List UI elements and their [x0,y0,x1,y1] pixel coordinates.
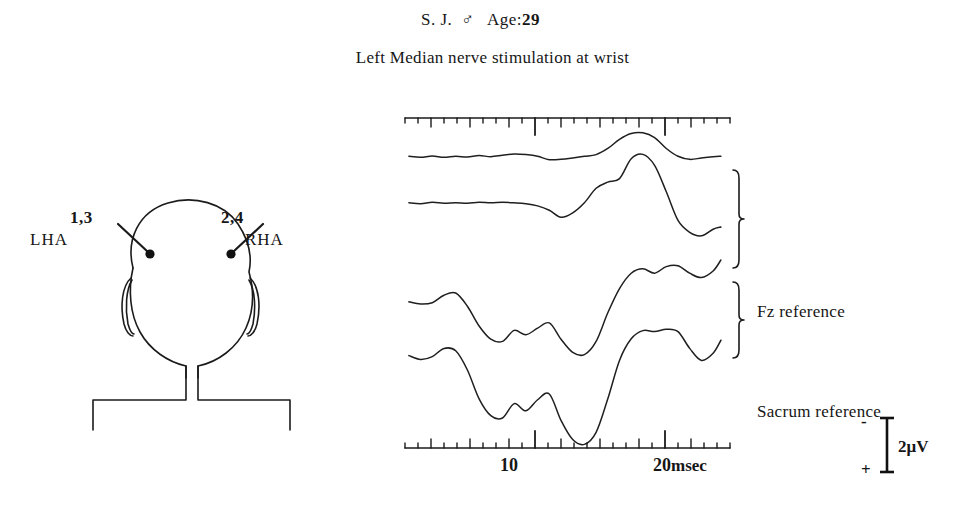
fz-group-bracket [733,170,744,268]
right-electrode-label: RHA [245,230,284,250]
sep-figure: S. J. ♂ Age:29 Left Median nerve stimula… [0,0,961,523]
head-diagram: 1,3 LHA 2,4 RHA [18,100,348,440]
patient-header: S. J. ♂ Age:29 [0,10,961,30]
subject-initials: S. J. [421,10,452,29]
calibration-negative-sign: - [861,412,867,432]
waveform-trace-1 [409,132,721,159]
stimulation-description: Left Median nerve stimulation at wrist [0,48,961,68]
right-electrode-numbers: 2,4 [221,208,244,228]
neck-shoulder-right [198,366,290,430]
left-electrode-numbers: 1,3 [70,208,93,228]
head-outline-svg [18,100,348,440]
axis-tick-label-10: 10 [500,455,518,476]
neck-shoulder-left [93,366,186,430]
waveform-trace-4 [409,329,721,445]
skull-outline-left [130,268,186,378]
left-electrode-label: LHA [30,230,68,250]
waveform-traces-svg [395,100,955,500]
right-electrode-dot [226,249,235,258]
right-ear-icon [248,278,259,336]
axis-unit-label: msec [671,456,707,475]
calibration-amplitude-label: 2μV [898,437,928,457]
axis-tick-20-value: 20 [653,455,671,475]
stimulation-text: Left Median nerve stimulation at wrist [356,48,629,67]
age-label: Age: [487,10,522,29]
axis-tick-label-20: 20msec [653,455,707,476]
calibration-positive-sign: + [861,460,871,480]
right-ear-inner [247,280,255,334]
male-sex-icon: ♂ [457,10,478,29]
fz-reference-label: Fz reference [757,302,845,322]
age-value: 29 [522,10,540,29]
left-electrode-leader [118,224,148,252]
waveform-trace-3 [409,260,721,355]
waveform-trace-2 [409,154,721,236]
sacrum-group-bracket [733,282,744,358]
top-time-axis [405,118,730,135]
waveform-panel: Fz reference Sacrum reference - + 2μV 10… [395,100,955,500]
left-electrode-dot [145,249,154,258]
